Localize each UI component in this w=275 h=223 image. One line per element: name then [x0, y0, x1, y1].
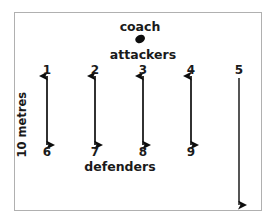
defenders-label: defenders	[84, 161, 155, 174]
position-label-5: 5	[235, 64, 243, 76]
position-label-8: 8	[139, 146, 147, 158]
coach-label: coach	[120, 21, 161, 34]
position-label-4: 4	[187, 64, 195, 76]
position-label-1: 1	[43, 64, 51, 76]
position-label-7: 7	[91, 146, 99, 158]
position-label-9: 9	[187, 146, 195, 158]
attackers-label: attackers	[110, 49, 176, 62]
position-label-3: 3	[139, 64, 147, 76]
diagram-canvas: coach attackers 1 2 3 4 5 6 7 8 9 defend…	[0, 0, 275, 223]
position-label-2: 2	[91, 64, 99, 76]
scale-label: 10 metres	[17, 92, 29, 158]
position-label-6: 6	[43, 146, 51, 158]
